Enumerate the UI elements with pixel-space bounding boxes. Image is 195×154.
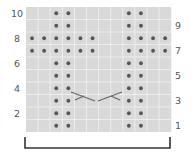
purl-dot bbox=[127, 111, 131, 115]
purl-dot bbox=[139, 61, 143, 65]
purl-dot bbox=[139, 74, 143, 78]
chart-grid bbox=[26, 7, 171, 132]
row-labels-left: 108642 bbox=[11, 8, 23, 119]
purl-dot bbox=[54, 49, 58, 53]
repeat-bracket bbox=[25, 137, 170, 148]
purl-dot bbox=[54, 24, 58, 28]
purl-dot bbox=[151, 36, 155, 40]
purl-dot bbox=[54, 36, 58, 40]
row-label: 9 bbox=[175, 20, 181, 31]
purl-dot bbox=[30, 36, 34, 40]
purl-dot bbox=[54, 111, 58, 115]
purl-dot bbox=[54, 86, 58, 90]
purl-dot bbox=[91, 49, 95, 53]
purl-dot bbox=[139, 24, 143, 28]
purl-dot bbox=[139, 49, 143, 53]
purl-dot bbox=[79, 36, 83, 40]
purl-dot bbox=[139, 99, 143, 103]
purl-dot bbox=[127, 36, 131, 40]
purl-dot bbox=[127, 99, 131, 103]
purl-dot bbox=[91, 36, 95, 40]
purl-dot bbox=[127, 49, 131, 53]
row-label: 10 bbox=[11, 8, 23, 19]
purl-dot bbox=[66, 24, 70, 28]
purl-dot bbox=[66, 124, 70, 128]
purl-dot bbox=[127, 124, 131, 128]
row-label: 6 bbox=[14, 58, 20, 69]
row-label: 8 bbox=[14, 33, 20, 44]
purl-dot bbox=[139, 124, 143, 128]
purl-dot bbox=[139, 111, 143, 115]
purl-dot bbox=[66, 49, 70, 53]
purl-dot bbox=[79, 49, 83, 53]
purl-dot bbox=[163, 49, 167, 53]
purl-dot bbox=[30, 49, 34, 53]
row-label: 1 bbox=[175, 120, 181, 131]
purl-dot bbox=[66, 99, 70, 103]
row-labels-right: 97531 bbox=[175, 20, 181, 131]
purl-dot bbox=[42, 49, 46, 53]
row-label: 4 bbox=[14, 83, 20, 94]
row-label: 5 bbox=[175, 70, 181, 81]
purl-dot bbox=[139, 86, 143, 90]
purl-dot bbox=[66, 111, 70, 115]
purl-dot bbox=[163, 36, 167, 40]
purl-dot bbox=[127, 11, 131, 15]
purl-dot bbox=[139, 36, 143, 40]
purl-dot bbox=[139, 11, 143, 15]
row-label: 3 bbox=[175, 95, 181, 106]
purl-dot bbox=[66, 86, 70, 90]
row-label: 7 bbox=[175, 45, 181, 56]
purl-dot bbox=[127, 86, 131, 90]
purl-dot bbox=[127, 61, 131, 65]
purl-dot bbox=[66, 74, 70, 78]
purl-dot bbox=[127, 74, 131, 78]
purl-dot bbox=[66, 61, 70, 65]
purl-dot bbox=[54, 74, 58, 78]
purl-dot bbox=[127, 24, 131, 28]
purl-dot bbox=[54, 61, 58, 65]
row-label: 2 bbox=[14, 108, 20, 119]
purl-dot bbox=[151, 49, 155, 53]
purl-dot bbox=[66, 11, 70, 15]
purl-dot bbox=[54, 11, 58, 15]
purl-dot bbox=[66, 36, 70, 40]
purl-dot bbox=[42, 36, 46, 40]
purl-dot bbox=[54, 99, 58, 103]
purl-dot bbox=[54, 124, 58, 128]
knitting-chart: 108642 97531 bbox=[0, 0, 195, 154]
